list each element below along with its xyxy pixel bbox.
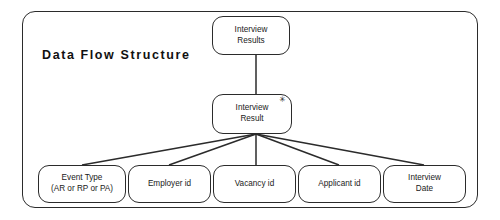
leaf-node-line2: Date <box>416 184 433 193</box>
node-interview-result-line1: Interview <box>236 103 269 112</box>
leaf-node-line1: Interview <box>408 173 441 182</box>
leaf-node-label: Event Type(AR or RP or PA) <box>48 173 116 195</box>
diagram-title: Data Flow Structure <box>42 48 190 62</box>
node-interview-results[interactable]: Interview Results <box>212 16 290 55</box>
leaf-node-line1: Vacancy id <box>235 179 274 188</box>
diagram-canvas: Data Flow Structure Interview Results ✳ … <box>0 0 500 220</box>
leaf-node-line2: (AR or RP or PA) <box>51 184 113 193</box>
leaf-node-label: Applicant id <box>315 179 363 190</box>
leaf-node-line1: Applicant id <box>318 179 360 188</box>
leaf-node-label: Vacancy id <box>232 179 277 190</box>
leaf-node-line1: Employer id <box>148 179 191 188</box>
node-interview-result-label: Interview Result <box>233 103 272 125</box>
node-interview-result[interactable]: ✳ Interview Result <box>212 94 292 134</box>
leaf-node-label: InterviewDate <box>405 173 444 195</box>
iteration-asterisk-icon: ✳ <box>279 96 286 104</box>
leaf-node[interactable]: Event Type(AR or RP or PA) <box>38 165 126 203</box>
leaf-node[interactable]: InterviewDate <box>383 165 466 203</box>
leaf-node-line1: Event Type <box>62 173 103 182</box>
node-interview-results-line1: Interview <box>235 25 268 34</box>
leaf-node[interactable]: Vacancy id <box>213 165 296 203</box>
leaf-node[interactable]: Employer id <box>128 165 211 203</box>
leaf-node-label: Employer id <box>145 179 194 190</box>
leaf-node[interactable]: Applicant id <box>298 165 381 203</box>
node-interview-results-line2: Results <box>237 36 264 45</box>
node-interview-result-line2: Result <box>240 114 263 123</box>
node-interview-results-label: Interview Results <box>232 25 271 47</box>
